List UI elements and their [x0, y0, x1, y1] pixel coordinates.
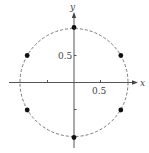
point-330deg [118, 108, 123, 113]
y-axis-label: y [69, 2, 76, 12]
point-150deg [25, 53, 30, 58]
point-270deg [72, 135, 77, 140]
point-30deg [118, 53, 123, 58]
point-90deg [72, 25, 77, 30]
y-tick-label: 0.5 [58, 51, 73, 61]
x-tick-label: 0.5 [92, 86, 107, 96]
point-210deg [25, 108, 30, 113]
roots-of-unity-diagram: x y 0.5 0.5 [0, 0, 149, 153]
x-axis-arrow-icon [132, 80, 138, 84]
x-axis-label: x [140, 78, 145, 88]
y-axis-arrow-icon [72, 12, 76, 18]
